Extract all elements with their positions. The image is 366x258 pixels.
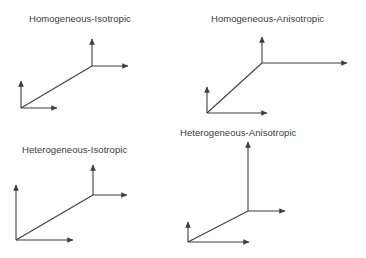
panel-label-heterogeneous-isotropic: Heterogeneous-Isotropic xyxy=(22,145,127,155)
panel-label-homogeneous-anisotropic: Homogeneous-Anisotropic xyxy=(211,14,324,24)
panel-heterogeneous-anisotropic-axes xyxy=(188,142,285,242)
coordinate-triad-figure: Homogeneous-Isotropic Homogeneous-Anisot… xyxy=(0,0,366,258)
panel-homogeneous-anisotropic-axes xyxy=(207,37,347,113)
depth-axis-connector xyxy=(21,66,92,108)
depth-axis-connector xyxy=(207,63,262,113)
panel-homogeneous-isotropic-axes xyxy=(21,39,128,108)
depth-axis-connector xyxy=(188,211,248,242)
depth-axis-connector xyxy=(16,195,93,240)
panel-label-homogeneous-isotropic: Homogeneous-Isotropic xyxy=(29,14,131,24)
panel-label-heterogeneous-anisotropic: Heterogeneous-Anisotropic xyxy=(180,128,296,138)
panel-heterogeneous-isotropic-axes xyxy=(16,165,127,240)
